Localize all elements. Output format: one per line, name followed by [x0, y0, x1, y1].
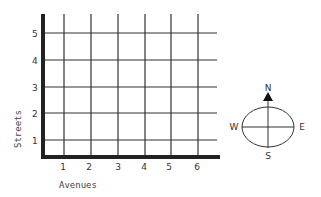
x-tick-3: 3 — [115, 162, 121, 172]
x-tick-1: 1 — [60, 162, 66, 172]
x-axis-label: Avenues — [59, 180, 97, 190]
horizontal-grid-lines — [44, 33, 217, 140]
y-axis-label: Streets — [13, 110, 23, 148]
compass-south: S — [265, 151, 271, 161]
compass-east: E — [299, 122, 305, 132]
y-axis — [41, 14, 45, 158]
north-arrow-icon — [263, 92, 273, 101]
x-tick-4: 4 — [141, 162, 147, 172]
x-axis — [41, 155, 220, 159]
city-grid-diagram: 5 4 3 2 1 1 2 3 4 5 6 Avenues Streets N … — [0, 0, 321, 197]
y-tick-labels: 5 4 3 2 1 — [32, 29, 38, 146]
x-tick-6: 6 — [194, 162, 200, 172]
y-tick-3: 3 — [32, 83, 38, 93]
x-tick-2: 2 — [86, 162, 92, 172]
compass-rose: N S E W — [230, 83, 306, 161]
compass-north: N — [265, 83, 272, 93]
y-tick-4: 4 — [32, 56, 38, 66]
y-tick-1: 1 — [32, 136, 38, 146]
x-tick-labels: 1 2 3 4 5 6 — [60, 162, 200, 172]
x-tick-5: 5 — [166, 162, 172, 172]
compass-west: W — [230, 122, 239, 132]
y-tick-2: 2 — [32, 109, 38, 119]
y-tick-5: 5 — [32, 29, 38, 39]
vertical-grid-lines — [64, 14, 198, 156]
